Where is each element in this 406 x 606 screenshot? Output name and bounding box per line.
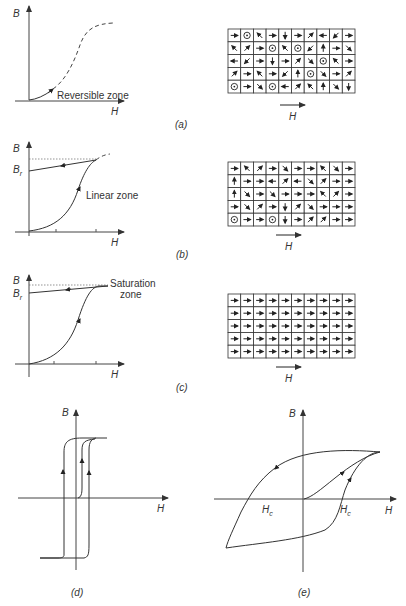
zone-label: zone — [120, 289, 142, 300]
initial-curve — [304, 452, 380, 499]
out-of-page-dot-icon — [272, 86, 274, 88]
h-axis-label: H — [157, 503, 165, 514]
panel-e-plot: B H Hc Hc (e) — [214, 408, 396, 598]
out-of-page-dot-icon — [272, 219, 274, 221]
b-axis-label: B — [289, 408, 296, 419]
b-axis-label: B — [13, 143, 20, 154]
caption-c: (c) — [176, 382, 188, 393]
b-axis-label: B — [62, 407, 69, 418]
dashed-curve — [53, 23, 113, 89]
panel-c-plot: B H Br Saturation zone (c) — [13, 275, 188, 393]
dashed-extension — [96, 154, 110, 160]
reversible-zone-label: Reversible zone — [57, 90, 129, 101]
direction-arrow-icon — [66, 289, 71, 290]
panel-d-plot: B H (d) — [18, 407, 168, 598]
out-of-page-dot-icon — [322, 60, 324, 62]
h-axis-label: H — [111, 237, 119, 248]
caption-d: (d) — [71, 587, 83, 598]
field-label: H — [285, 241, 293, 252]
domain-grid-b — [228, 162, 355, 226]
field-arrow-c: H — [276, 367, 301, 384]
h-axis-label: H — [385, 505, 393, 516]
field-label: H — [289, 111, 297, 122]
out-of-page-dot-icon — [310, 73, 312, 75]
out-of-page-dot-icon — [297, 47, 299, 49]
domain-grid-c — [228, 294, 355, 358]
b-axis-label: B — [13, 275, 20, 286]
panel-a-plot: B H Reversible zone (a) — [13, 6, 187, 130]
magnetization-curve — [29, 286, 108, 364]
b-axis-label: B — [13, 8, 20, 19]
figure-canvas: B H Reversible zone (a) B H Br Linear zo… — [0, 0, 406, 606]
out-of-page-dot-icon — [246, 35, 248, 37]
hc-right-label: Hc — [340, 504, 351, 517]
br-label: Br — [13, 288, 23, 301]
domain-grid-a — [228, 29, 355, 93]
panel-b-plot: B H Br Linear zone (b) — [13, 142, 188, 260]
out-of-page-dot-icon — [233, 219, 235, 221]
caption-b: (b) — [176, 249, 188, 260]
out-of-page-dot-icon — [272, 47, 274, 49]
initial-curve — [78, 439, 95, 498]
direction-arrow-icon — [48, 89, 53, 93]
out-of-page-dot-icon — [233, 86, 235, 88]
initial-curve — [29, 90, 52, 100]
caption-e: (e) — [298, 587, 310, 598]
linear-zone-label: Linear zone — [86, 190, 139, 201]
h-axis-label: H — [111, 369, 119, 380]
caption-a: (a) — [175, 119, 187, 130]
saturation-label: Saturation — [110, 278, 156, 289]
field-arrow-a: H — [280, 105, 305, 122]
h-axis-label: H — [111, 106, 119, 117]
hc-left-label: Hc — [262, 504, 273, 517]
field-label: H — [285, 373, 293, 384]
br-label: Br — [13, 164, 23, 177]
field-arrow-b: H — [276, 235, 301, 252]
